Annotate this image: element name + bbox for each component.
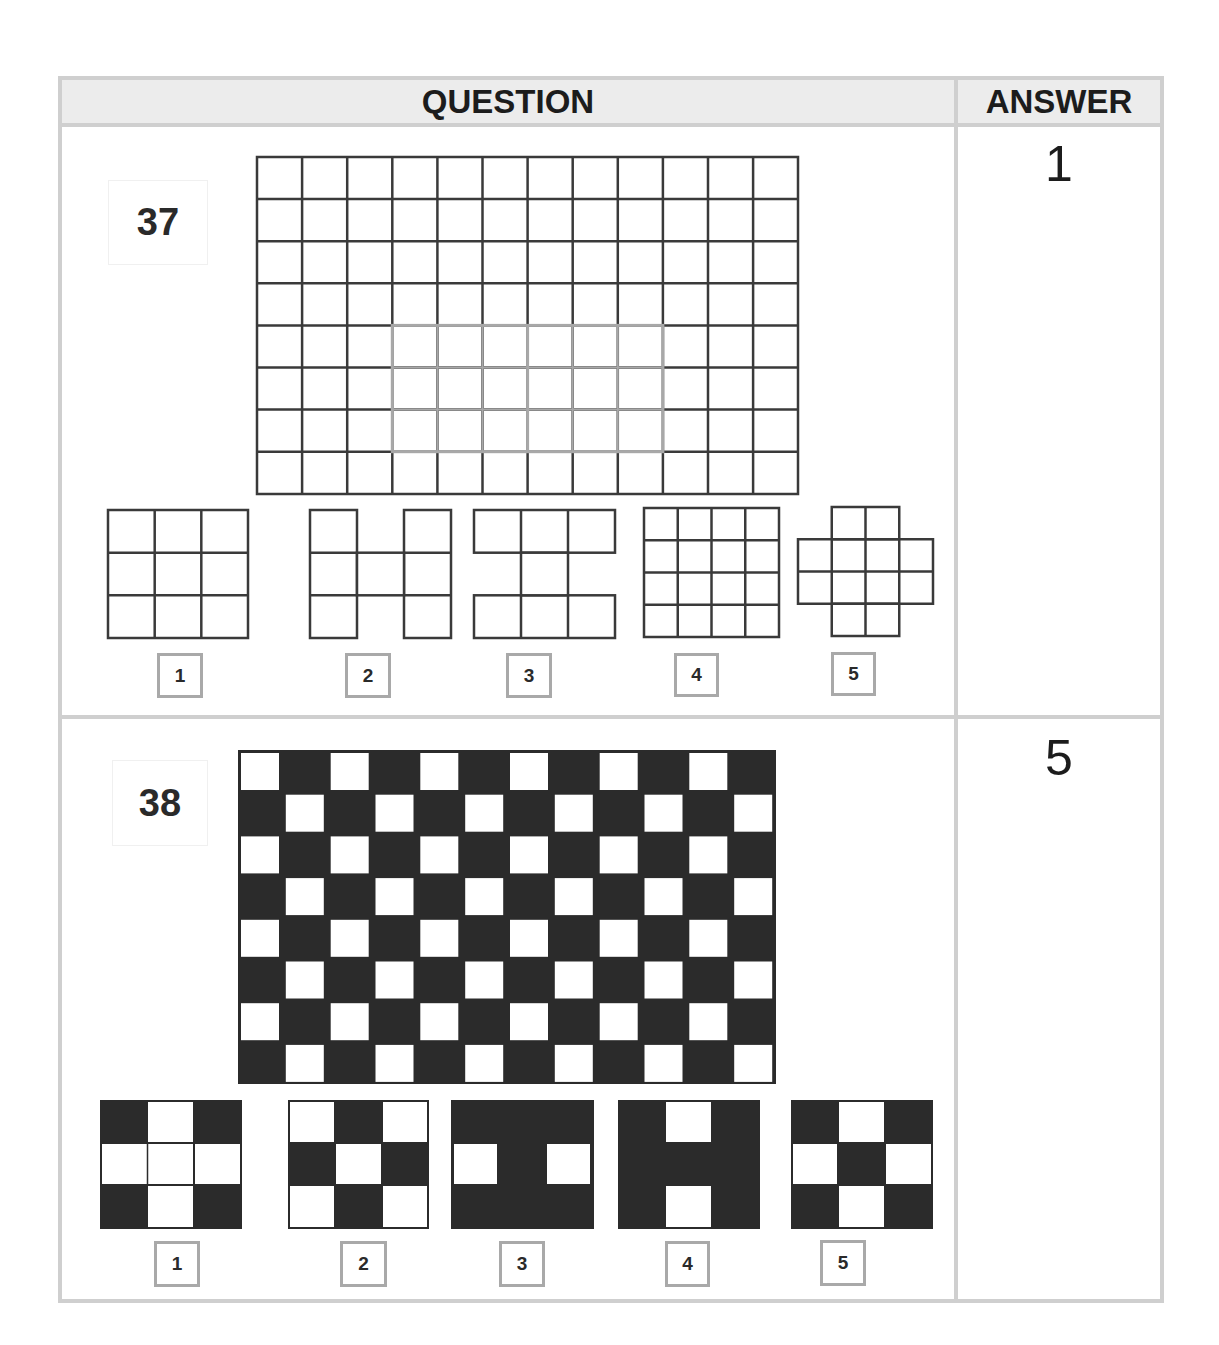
q37-main-grid: [256, 156, 799, 495]
q38-option-1-shape[interactable]: [100, 1100, 242, 1229]
q38-option-1-label[interactable]: 1: [154, 1241, 200, 1287]
header-answer: ANSWER: [958, 78, 1160, 126]
q37-option-1-label[interactable]: 1: [157, 653, 203, 698]
q38-option-3-shape[interactable]: [451, 1100, 594, 1229]
q38-option-3-label[interactable]: 3: [499, 1241, 545, 1287]
q38-option-2-label[interactable]: 2: [340, 1241, 387, 1287]
header-question: QUESTION: [62, 78, 954, 126]
q38-option-5-label[interactable]: 5: [820, 1240, 866, 1286]
q37-option-3-label[interactable]: 3: [506, 653, 552, 698]
q37-option-5-shape[interactable]: [797, 506, 934, 637]
q38-option-2-shape[interactable]: [288, 1100, 429, 1229]
q37-option-5-label[interactable]: 5: [831, 652, 876, 696]
q37-option-2-label[interactable]: 2: [345, 653, 391, 698]
question-number-38: 38: [112, 760, 208, 846]
answer-38: 5: [958, 728, 1160, 788]
column-divider: [954, 76, 958, 1303]
q38-option-4-label[interactable]: 4: [665, 1241, 710, 1287]
q37-option-1-shape[interactable]: [107, 509, 249, 639]
q37-option-2-shape[interactable]: [309, 509, 452, 639]
q37-option-3-shape[interactable]: [473, 509, 616, 639]
q38-option-5-shape[interactable]: [791, 1100, 933, 1229]
q37-option-4-shape[interactable]: [643, 507, 780, 638]
q38-checkerboard: [238, 750, 776, 1084]
row-divider: [58, 715, 1164, 719]
q37-highlight-region: [392, 325, 663, 451]
answer-37: 1: [958, 134, 1160, 194]
question-number-37: 37: [108, 180, 208, 265]
q37-option-4-label[interactable]: 4: [674, 653, 719, 697]
q38-option-4-shape[interactable]: [618, 1100, 760, 1229]
